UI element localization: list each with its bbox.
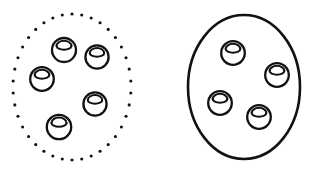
boundary-dot <box>114 135 117 138</box>
boundary-dot <box>128 103 131 106</box>
figure-canvas <box>0 0 318 174</box>
boundary-dot <box>16 56 19 59</box>
ball-token <box>52 38 76 62</box>
boundary-dot <box>70 158 73 161</box>
ball-token <box>47 115 71 139</box>
boundary-dot <box>27 36 30 39</box>
boundary-dot <box>16 115 19 118</box>
boundary-dot <box>13 103 16 106</box>
boundary-dot <box>51 16 54 19</box>
boundary-dot <box>90 154 93 157</box>
boundary-dot <box>114 36 117 39</box>
boundary-dot <box>124 115 127 118</box>
boundary-dot <box>80 13 83 16</box>
boundary-dot <box>61 157 64 160</box>
boundary-dot <box>128 68 131 71</box>
ball-token <box>265 63 289 87</box>
boundary-dot <box>120 125 123 128</box>
boundary-dot <box>120 46 123 49</box>
ball-token <box>247 105 271 129</box>
boundary-dot <box>13 68 16 71</box>
boundary-dot <box>21 125 24 128</box>
boundary-dot <box>99 150 102 153</box>
boundary-dot <box>99 21 102 24</box>
boundary-dot <box>80 157 83 160</box>
boundary-dot <box>51 154 54 157</box>
ball-token <box>83 92 106 115</box>
boundary-dot <box>34 28 37 31</box>
set-comparison-diagram <box>0 0 318 174</box>
ball-token <box>208 91 232 115</box>
boundary-dot <box>12 79 15 82</box>
boundary-dot <box>107 143 110 146</box>
ball-token <box>30 67 54 91</box>
boundary-dot <box>70 12 73 15</box>
boundary-dot <box>34 143 37 146</box>
boundary-dot <box>107 28 110 31</box>
boundary-dot <box>61 13 64 16</box>
ball-token <box>221 41 245 65</box>
boundary-dot <box>129 91 132 94</box>
boundary-dot <box>42 150 45 153</box>
boundary-dot <box>42 21 45 24</box>
boundary-dot <box>12 91 15 94</box>
boundary-dot <box>129 79 132 82</box>
ball-token <box>85 45 108 68</box>
boundary-dot <box>21 46 24 49</box>
boundary-dot <box>124 56 127 59</box>
boundary-dot <box>90 16 93 19</box>
boundary-dot <box>27 135 30 138</box>
